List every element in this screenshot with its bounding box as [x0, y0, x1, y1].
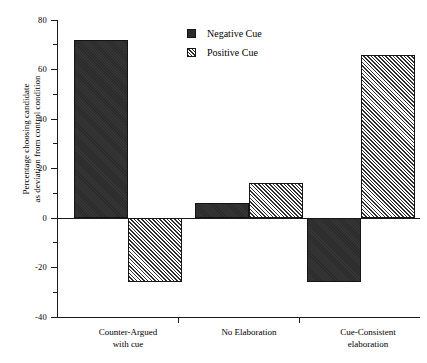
x-axis-label-cue-consistent: Cue-Consistent elaboration	[303, 327, 427, 350]
legend-item-negative-cue: Negative Cue	[187, 24, 262, 43]
x-axis-separator-tick-2	[299, 318, 300, 323]
legend-label-negative-cue: Negative Cue	[207, 29, 262, 39]
x-axis-separator-tick-1	[178, 318, 179, 323]
y-tick-label-60: 60	[7, 65, 47, 74]
y-tick-label-0: 0	[7, 214, 47, 223]
bar-counter-argued-positive-cue	[128, 218, 182, 282]
y-tick-label-20: 20	[7, 164, 47, 173]
bar-cue-consistent-negative-cue	[307, 218, 361, 282]
x-axis-label-no-elaboration-line1: No Elaboration	[221, 327, 276, 337]
x-axis-label-cue-consistent-line1: Cue-Consistent	[340, 327, 396, 337]
zero-baseline	[57, 218, 420, 219]
x-axis-line	[57, 317, 420, 318]
bar-no-elaboration-positive-cue	[249, 183, 303, 218]
legend-swatch-positive-cue	[187, 48, 196, 57]
bar-cue-consistent-positive-cue	[361, 55, 415, 218]
y-tick-label-neg20: -20	[7, 263, 47, 272]
bar-chart: Percentage choosing candidate as deviati…	[0, 0, 427, 363]
y-tick-label-80: 80	[7, 16, 47, 25]
legend-swatch-negative-cue	[187, 29, 196, 38]
x-axis-label-counter-argued-line2: with cue	[63, 339, 193, 351]
x-axis-label-counter-argued: Counter-Argued with cue	[63, 327, 193, 350]
bar-counter-argued-negative-cue	[74, 40, 128, 218]
x-axis-label-no-elaboration: No Elaboration	[184, 327, 314, 339]
bar-no-elaboration-negative-cue	[195, 203, 249, 218]
y-tick-label-40: 40	[7, 115, 47, 124]
legend: Negative Cue Positive Cue	[187, 24, 262, 62]
legend-label-positive-cue: Positive Cue	[207, 48, 258, 58]
y-axis-line	[57, 20, 58, 318]
y-tick-label-neg40: -40	[7, 313, 47, 322]
x-axis-label-cue-consistent-line2: elaboration	[303, 339, 427, 351]
y-axis-title-line1: Percentage choosing candidate	[21, 84, 31, 195]
x-axis-label-counter-argued-line1: Counter-Argued	[99, 327, 158, 337]
legend-item-positive-cue: Positive Cue	[187, 43, 262, 62]
